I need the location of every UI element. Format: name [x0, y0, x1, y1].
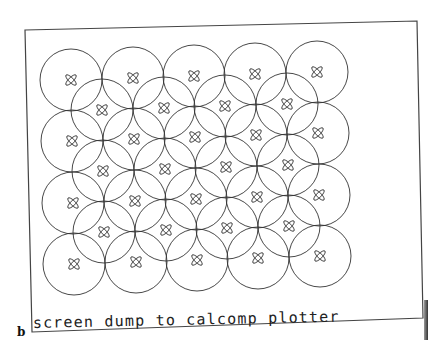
circle-lattice — [40, 41, 351, 295]
circle — [73, 201, 135, 263]
petal-marker-icon — [94, 222, 114, 242]
petal-marker-icon — [309, 185, 329, 205]
petal-marker-icon — [186, 189, 206, 209]
petal-marker-icon — [92, 100, 112, 120]
petal-marker-icon — [308, 123, 328, 143]
petal-marker-icon — [247, 187, 267, 207]
figure-label: b — [17, 325, 25, 339]
petal-marker-icon — [64, 254, 84, 274]
petal-marker-icon — [245, 64, 265, 84]
petal-marker-icon — [125, 191, 145, 211]
petal-marker-icon — [307, 62, 327, 82]
paper-edge-shadow — [424, 300, 428, 340]
petal-marker-icon — [62, 131, 82, 151]
petal-marker-icon — [248, 248, 268, 268]
petal-marker-icon — [278, 155, 298, 175]
petal-marker-icon — [184, 66, 204, 86]
petal-marker-icon — [126, 252, 146, 272]
petal-marker-icon — [310, 246, 330, 266]
petal-marker-icon — [185, 127, 205, 147]
petal-marker-icon — [277, 94, 297, 114]
petal-marker-icon — [216, 157, 236, 177]
petal-marker-icon — [187, 250, 207, 270]
circle — [287, 102, 349, 164]
petal-marker-icon — [156, 220, 176, 240]
petal-marker-icon — [246, 125, 266, 145]
petal-marker-icon — [279, 216, 299, 236]
petal-marker-icon — [61, 70, 81, 90]
petal-marker-icon — [124, 129, 144, 149]
petal-marker-icon — [217, 218, 237, 238]
petal-marker-icon — [123, 68, 143, 88]
petal-marker-icon — [215, 96, 235, 116]
circle — [256, 73, 318, 135]
circle — [42, 172, 104, 234]
petal-marker-icon — [155, 159, 175, 179]
plot-diagram — [0, 0, 428, 357]
petal-marker-icon — [63, 193, 83, 213]
circle — [225, 104, 287, 166]
petal-marker-icon — [154, 98, 174, 118]
petal-marker-icon — [93, 161, 113, 181]
